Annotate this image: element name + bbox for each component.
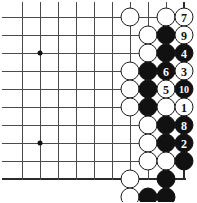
stone-black-move-2: 2 (175, 134, 194, 153)
stone-white (139, 26, 158, 45)
stone-black (139, 98, 158, 117)
move-number-label: 4 (181, 47, 187, 59)
grid-line-vertical (58, 2, 59, 180)
move-number-label: 10 (179, 84, 189, 94)
star-point (38, 51, 43, 56)
grid-line-vertical (76, 2, 77, 180)
stone-black (157, 170, 176, 189)
grid-line-vertical (112, 2, 113, 180)
stone-black (157, 116, 176, 135)
move-number-label: 5 (163, 83, 169, 95)
stone-black-move-10: 10 (175, 80, 194, 99)
move-number-label: 8 (181, 119, 187, 131)
stone-black-move-4: 4 (175, 44, 194, 63)
stone-white (121, 80, 140, 99)
stone-white-move-3: 3 (175, 62, 194, 81)
stone-black-move-8: 8 (175, 116, 194, 135)
grid-line-vertical (40, 2, 41, 180)
star-point (38, 141, 43, 146)
stone-white (157, 98, 176, 117)
stone-black (157, 26, 176, 45)
stone-white-move-5: 5 (157, 80, 176, 99)
stone-black (139, 188, 158, 203)
stone-white (121, 170, 140, 189)
stone-white-move-7: 7 (175, 8, 194, 27)
stone-white-move-1: 1 (175, 98, 194, 117)
stone-white (139, 152, 158, 171)
move-number-label: 9 (181, 29, 187, 41)
stone-white (121, 98, 140, 117)
move-number-label: 6 (163, 65, 169, 77)
move-number-label: 2 (181, 137, 187, 149)
stone-white-move-9: 9 (175, 26, 194, 45)
stone-black (157, 188, 176, 203)
stone-white (121, 188, 140, 203)
go-board: 79463510182 (0, 0, 197, 202)
stone-white (121, 62, 140, 81)
grid-line-vertical (94, 2, 95, 180)
stone-black (139, 62, 158, 81)
move-number-label: 7 (181, 11, 187, 23)
stone-black (157, 134, 176, 153)
move-number-label: 3 (181, 65, 187, 77)
stone-black (157, 44, 176, 63)
grid-line-vertical (22, 2, 23, 180)
stone-white (139, 44, 158, 63)
stone-white (157, 152, 176, 171)
stone-black-move-6: 6 (157, 62, 176, 81)
stone-black (175, 152, 194, 171)
move-number-label: 1 (181, 101, 187, 113)
stone-black (139, 80, 158, 99)
stone-white (121, 8, 140, 27)
stone-white (139, 116, 158, 135)
stone-white (139, 134, 158, 153)
stone-white (157, 8, 176, 27)
